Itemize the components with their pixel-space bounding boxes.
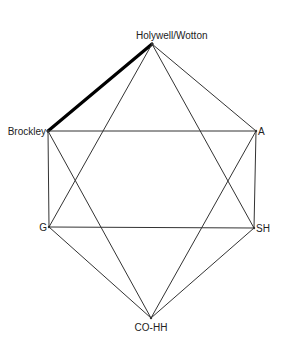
node-cohh: CO-HH	[135, 317, 168, 333]
edge-g-sh	[49, 227, 254, 228]
node-label: A	[258, 126, 265, 137]
node-point	[47, 130, 49, 132]
edges-layer	[48, 44, 256, 318]
node-point	[150, 317, 152, 319]
node-label: SH	[256, 223, 270, 234]
node-label: CO-HH	[135, 322, 168, 333]
edge-a-cohh	[151, 131, 256, 318]
edge-brockley-cohh	[48, 131, 151, 318]
nodes-layer: Holywell/WottonBrockleyAGSHCO-HH	[8, 30, 270, 333]
node-point	[255, 130, 257, 132]
node-point	[151, 43, 153, 45]
node-holywell: Holywell/Wotton	[136, 30, 208, 45]
node-label: G	[39, 222, 47, 233]
node-label: Brockley	[8, 126, 46, 137]
edge-holywell-g	[49, 44, 152, 227]
edge-sh-cohh	[151, 228, 254, 318]
edge-g-cohh	[49, 227, 151, 318]
node-brockley: Brockley	[8, 126, 50, 137]
edge-a-sh	[254, 131, 256, 228]
edge-holywell-a	[152, 44, 256, 131]
network-diagram: Holywell/WottonBrockleyAGSHCO-HH	[0, 0, 287, 352]
node-point	[48, 226, 50, 228]
edge-brockley-g	[48, 131, 49, 227]
node-sh: SH	[253, 223, 270, 234]
node-label: Holywell/Wotton	[136, 30, 208, 41]
node-point	[253, 227, 255, 229]
edge-holywell-brockley	[48, 44, 152, 131]
edge-holywell-sh	[152, 44, 254, 228]
